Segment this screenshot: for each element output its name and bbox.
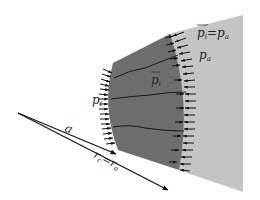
- svg-text:pi: pi: [92, 93, 102, 108]
- svg-text:pi=pa: pi=pa: [197, 26, 229, 41]
- svg-text:rc=ra: rc=ra: [91, 148, 122, 173]
- label-a: a: [63, 121, 75, 137]
- label-pi-bar-eq-pa: pi=pa: [197, 25, 229, 41]
- shell-pressure-diagram: pi=pa pa pi pi a rc=ra: [0, 0, 260, 200]
- label-pi: pi: [92, 93, 102, 108]
- svg-text:a: a: [63, 121, 75, 137]
- label-rc-eq-ra: rc=ra: [91, 148, 122, 173]
